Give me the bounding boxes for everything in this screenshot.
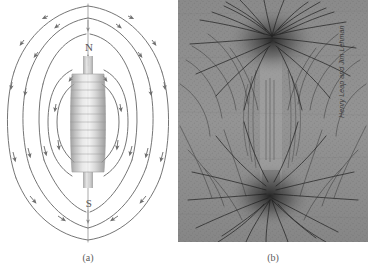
field-line-diagram — [0, 0, 176, 246]
caption-panel-b: (b) — [253, 253, 293, 263]
figure-root: N S — [0, 0, 387, 274]
panel-a-diagram: N S — [0, 0, 176, 274]
photo-credit: Henry Leap and Jim Lehman — [338, 0, 345, 118]
caption-panel-a: (a) — [68, 253, 108, 263]
bar-magnet — [70, 56, 106, 188]
south-pole-label: S — [79, 198, 99, 209]
panel-b-photograph: Henry Leap and Jim Lehman — [178, 0, 368, 274]
north-pole-label: N — [79, 42, 99, 53]
